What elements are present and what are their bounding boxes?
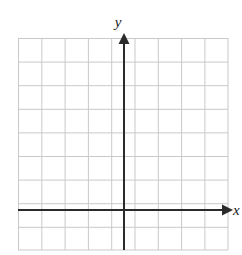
coordinate-plane-figure: x y (0, 0, 242, 255)
y-axis-label: y (113, 14, 122, 30)
x-axis-label: x (232, 202, 240, 218)
